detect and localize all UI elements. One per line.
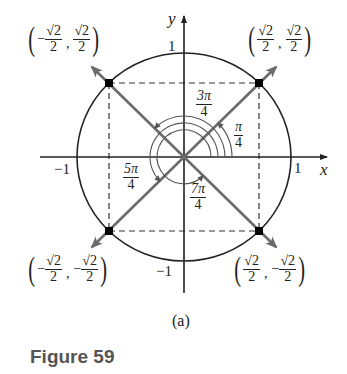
angle-label-5pi-4: 5π 4 bbox=[123, 162, 139, 192]
subfigure-label: (a) bbox=[172, 313, 190, 329]
x-tick-1: 1 bbox=[294, 161, 302, 176]
point-label-q3: ( − √22 , − √22 ) bbox=[26, 252, 109, 286]
y-tick-1: 1 bbox=[168, 39, 176, 54]
point-label-q4: ( √22 , − √22 ) bbox=[232, 252, 307, 286]
point-label-q1: ( √22 , √22 ) bbox=[246, 22, 314, 56]
angle-label-3pi-4: 3π 4 bbox=[196, 89, 212, 119]
x-axis-label: x bbox=[320, 161, 328, 178]
angle-label-7pi-4: 7π 4 bbox=[190, 182, 206, 212]
angle-label-pi-4: π 4 bbox=[234, 120, 243, 150]
figure-caption: Figure 59 bbox=[30, 346, 114, 368]
point-label-q2: ( − √22 , √22 ) bbox=[26, 22, 101, 56]
y-tick-neg-1: −1 bbox=[156, 264, 172, 279]
y-axis-label: y bbox=[168, 10, 176, 27]
x-tick-neg-1: −1 bbox=[54, 162, 70, 177]
